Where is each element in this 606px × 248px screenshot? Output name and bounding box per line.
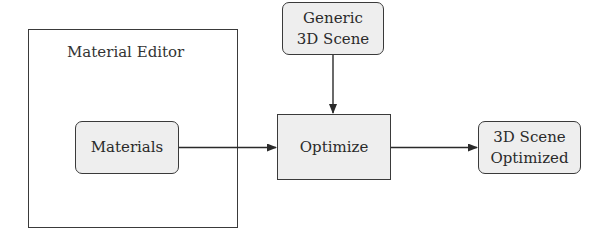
optimize-label: Optimize bbox=[300, 137, 369, 158]
optimize-node: Optimize bbox=[277, 114, 391, 180]
output-label-line2: Optimized bbox=[490, 148, 568, 169]
generic-label-line1: Generic bbox=[297, 8, 369, 29]
materials-label: Materials bbox=[91, 137, 164, 158]
scene-optimized-node: 3D Scene Optimized bbox=[478, 121, 581, 174]
output-label-line1: 3D Scene bbox=[490, 127, 568, 148]
generic-label-line2: 3D Scene bbox=[297, 29, 369, 50]
generic-3d-scene-node: Generic 3D Scene bbox=[282, 2, 384, 55]
materials-node: Materials bbox=[75, 121, 179, 174]
